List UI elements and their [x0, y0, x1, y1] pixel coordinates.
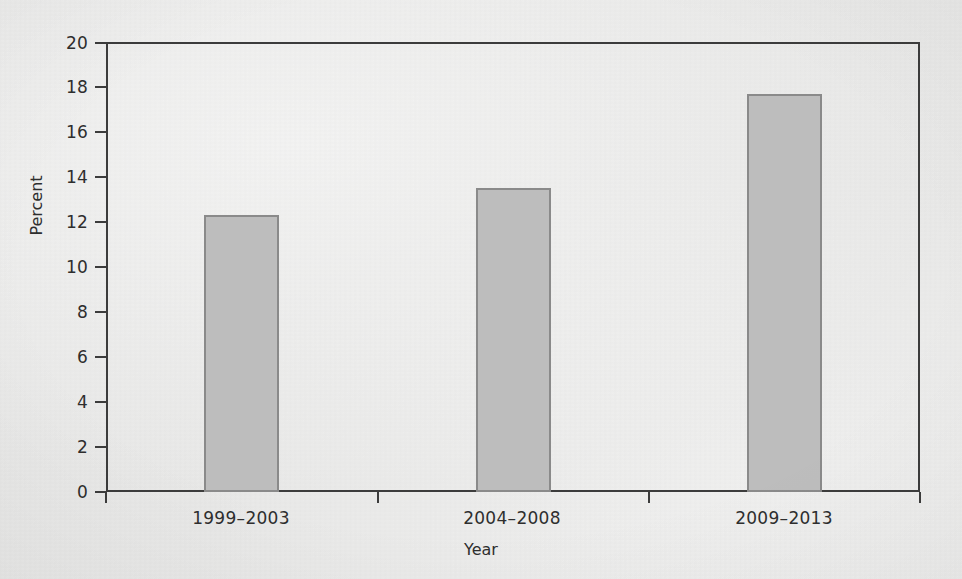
y-tick-mark-20	[95, 42, 106, 44]
y-tick-mark-4	[95, 401, 106, 403]
y-tick-mark-18	[95, 86, 106, 88]
bar-chart-figure: Percent 0 2 4 6 8 10 12 14 16 18 20	[0, 0, 962, 579]
y-tick-mark-16	[95, 131, 106, 133]
x-tick-mark-1	[377, 492, 379, 503]
y-tick-label-2: 2	[48, 437, 88, 457]
x-tick-mark-3	[919, 492, 921, 503]
y-tick-label-18: 18	[48, 77, 88, 97]
y-tick-mark-10	[95, 266, 106, 268]
y-tick-label-10: 10	[48, 257, 88, 277]
y-tick-label-16: 16	[48, 122, 88, 142]
y-tick-label-8: 8	[48, 302, 88, 322]
y-tick-label-12: 12	[48, 212, 88, 232]
y-tick-label-20: 20	[48, 33, 88, 53]
y-tick-mark-2	[95, 446, 106, 448]
bar-2004-2008[interactable]	[476, 188, 551, 492]
y-axis-title: Percent	[27, 146, 46, 266]
bar-1999-2003[interactable]	[204, 215, 279, 492]
y-tick-label-6: 6	[48, 347, 88, 367]
x-tick-label-2009-2013: 2009–2013	[684, 508, 884, 528]
y-tick-mark-6	[95, 356, 106, 358]
x-tick-mark-2	[648, 492, 650, 503]
y-tick-label-4: 4	[48, 392, 88, 412]
x-tick-mark-0	[105, 492, 107, 503]
bar-2009-2013[interactable]	[747, 94, 822, 492]
y-tick-label-14: 14	[48, 167, 88, 187]
y-tick-mark-8	[95, 311, 106, 313]
plot-area	[106, 42, 920, 492]
x-tick-label-1999-2003: 1999–2003	[141, 508, 341, 528]
y-tick-mark-14	[95, 176, 106, 178]
y-tick-mark-12	[95, 221, 106, 223]
x-tick-label-2004-2008: 2004–2008	[412, 508, 612, 528]
x-axis-title: Year	[0, 540, 962, 559]
y-tick-label-0: 0	[48, 482, 88, 502]
